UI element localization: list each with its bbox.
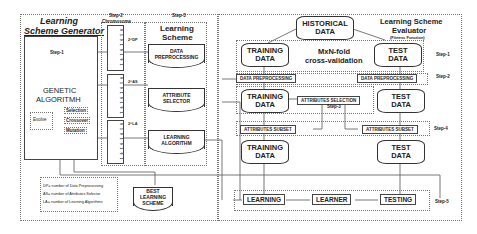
test-data-1: TEST DATA (374, 43, 422, 67)
scheme-item-1-line2: PREPROCESSING (155, 54, 199, 60)
training-3-line2: DATA (255, 152, 275, 160)
training-data-2: TRAINING DATA (241, 89, 289, 113)
legend-line-2: AS= number of Attributes Selector (43, 192, 100, 196)
scheme-attribute-selector: ATTRIBUTE SELECTOR (148, 88, 205, 107)
evolve-label: Evolve (33, 117, 47, 122)
training-data-3: TRAINING DATA (241, 140, 289, 164)
training-2-line2: DATA (255, 101, 275, 109)
chromosome-segment-as: 0 1 0 1 0 1 0 1 (107, 74, 124, 118)
scheme-data-preprocessing: DATA PREPROCESSING (148, 44, 205, 63)
evaluator-title-line1: Learning Scheme (380, 17, 443, 26)
chromosome-label-as: 2^AS (128, 80, 138, 84)
scheme-learning-algorithm: LEARNING ALGORITHM (148, 130, 205, 149)
generator-title-line1: Learning (40, 16, 78, 26)
training-data-1: TRAINING DATA (241, 43, 289, 67)
chromosome-step: Step-2 (109, 13, 123, 18)
legend-line-3: LA= number of Learning Algorithms (43, 200, 103, 204)
chromosome-title: Chromosome (102, 19, 131, 24)
cv-line2: cross-validation (305, 56, 363, 65)
ga-label-line2: ALGORITMH (36, 95, 81, 104)
data-preprocessing-test: DATA PREPROCESSING (357, 74, 417, 83)
historical-data: HISTORICAL DATA (296, 16, 354, 40)
chromosome-segment-la: 0 1 0 1 0 1 0 1 (107, 120, 124, 164)
step-5-label: Step-5 (435, 199, 449, 204)
scheme-item-2-line2: SELECTOR (163, 98, 190, 104)
operator-crossover: Crossover (64, 117, 90, 124)
operator-selection: Selection (64, 107, 88, 114)
scheme-title-line1: Learning (160, 24, 194, 33)
training-1-line2: DATA (255, 55, 275, 63)
testing-box: TESTING (380, 194, 416, 205)
chromosome-label-dp: 2^DP (128, 38, 138, 42)
scheme-step: Step-3 (172, 13, 186, 18)
test-2-line2: DATA (391, 101, 411, 109)
data-preprocessing-train: DATA PREPROCESSING (236, 74, 296, 83)
best-scheme-line3: SCHEME (142, 200, 163, 206)
operator-mutation: Mutation (64, 127, 87, 134)
evaluator-title-line2: Evaluator (392, 26, 426, 35)
test-1-line2: DATA (388, 55, 408, 63)
best-learning-scheme: BEST LEARNING SCHEME (133, 187, 173, 206)
test-data-3: TEST DATA (377, 140, 425, 164)
generator-step: Step-1 (50, 50, 64, 55)
cv-line1: MxN-fold (318, 47, 350, 56)
step-2-label: Step-2 (436, 74, 450, 79)
test-3-line2: DATA (391, 152, 411, 160)
step-1-label: Step-1 (436, 52, 450, 57)
historical-line2: DATA (315, 28, 335, 36)
ga-label-line1: GENETIC (43, 86, 76, 95)
scheme-title-line2: Scheme (162, 33, 193, 42)
learner-box: LEARNER (312, 194, 351, 205)
generator-title-line2: Scheme Generator (24, 26, 104, 36)
step-3-label: Step-3 (327, 104, 341, 109)
scheme-item-3-line2: ALGORITHM (161, 140, 191, 146)
chromosome-segment-dp: 0 1 0 1 0 1 0 1 (107, 25, 124, 71)
attributes-subset-test: ATTRIBUTES SUBSET (362, 125, 418, 134)
step-4-label: Step-4 (434, 126, 448, 131)
learning-box: LEARNING (243, 194, 285, 205)
legend-line-1: DP= number of Data Preprocessing (43, 184, 103, 188)
attributes-subset-train: ATTRIBUTES SUBSET (240, 125, 296, 134)
test-data-2: TEST DATA (377, 89, 425, 113)
chromosome-label-la: 2^LA (128, 122, 137, 126)
